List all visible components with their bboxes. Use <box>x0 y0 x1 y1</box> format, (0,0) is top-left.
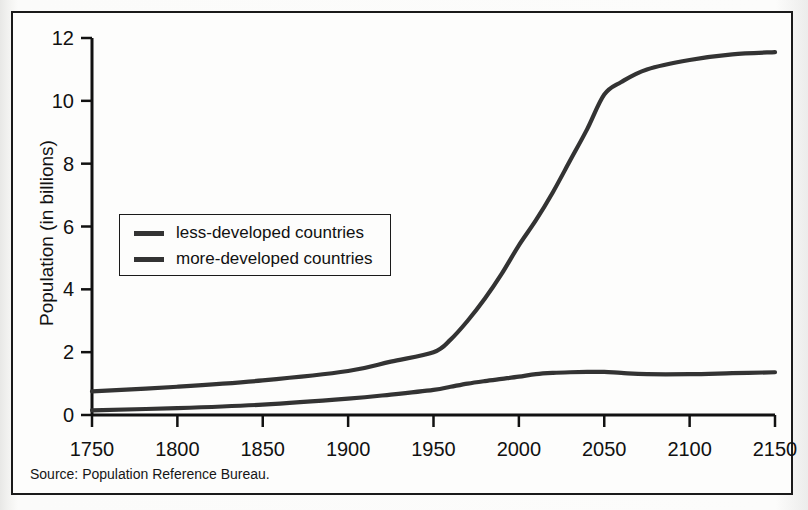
y-tick-label: 0 <box>63 404 74 426</box>
x-tick-label: 2150 <box>753 438 798 460</box>
legend-label-more-developed: more-developed countries <box>176 249 373 269</box>
legend-item-less-developed: less-developed countries <box>120 220 390 246</box>
x-tick-label: 2100 <box>667 438 712 460</box>
figure-container: 0246810121750180018501900195020002050210… <box>0 0 808 510</box>
legend-label-less-developed: less-developed countries <box>176 223 364 243</box>
x-tick-label: 1850 <box>241 438 286 460</box>
x-tick-label: 1950 <box>411 438 456 460</box>
data-line-more-developed <box>92 372 775 410</box>
y-tick-label: 6 <box>63 216 74 238</box>
x-tick-label: 1750 <box>70 438 115 460</box>
x-tick-label: 2000 <box>497 438 542 460</box>
y-tick-label: 8 <box>63 153 74 175</box>
x-tick-label: 1900 <box>326 438 371 460</box>
y-tick-label: 12 <box>52 27 74 49</box>
source-note: Source: Population Reference Bureau. <box>30 466 270 482</box>
legend-swatch-icon <box>134 257 164 262</box>
x-tick-label: 2050 <box>582 438 627 460</box>
legend-swatch-icon <box>134 231 164 236</box>
legend-item-more-developed: more-developed countries <box>120 246 390 272</box>
y-tick-label: 2 <box>63 341 74 363</box>
y-axis-title: Population (in billions) <box>36 68 58 398</box>
x-tick-label: 1800 <box>155 438 200 460</box>
chart-legend: less-developed countries more-developed … <box>119 214 391 276</box>
y-tick-label: 4 <box>63 278 74 300</box>
